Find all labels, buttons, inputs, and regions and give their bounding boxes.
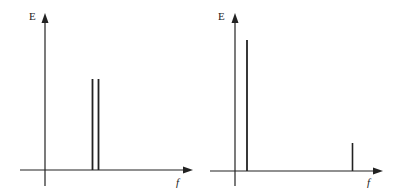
x-axis-label: f xyxy=(176,176,181,188)
y-axis-arrow-icon xyxy=(42,13,49,23)
spectrum-right: E f xyxy=(210,10,383,188)
y-axis-label: E xyxy=(218,10,225,22)
x-axis-arrow-icon xyxy=(373,168,383,175)
x-axis-arrow-icon xyxy=(183,167,193,174)
spectrum-left: E f xyxy=(20,10,193,188)
y-axis-arrow-icon xyxy=(232,13,239,23)
x-axis-label: f xyxy=(367,176,372,188)
y-axis-label: E xyxy=(29,10,36,22)
